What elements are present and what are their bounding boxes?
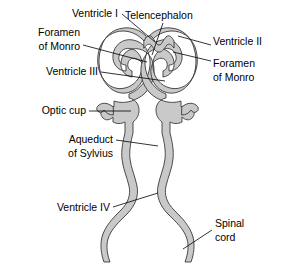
label-foramen-of-monro-right-line1: Foramen <box>213 57 255 69</box>
leader-lines <box>83 14 212 249</box>
leader-ventricle-2 <box>178 36 211 45</box>
label-ventricle-1: Ventricle I <box>72 7 118 19</box>
label-ventricle-2: Ventricle II <box>213 35 262 47</box>
ventricular-system-diagram: Ventricle I Telencephalon Foramen of Mon… <box>0 0 295 272</box>
label-aqueduct-of-sylvius-line2: of Sylvius <box>68 147 113 159</box>
label-foramen-of-monro-left-line1: Foramen <box>38 26 80 38</box>
label-telencephalon: Telencephalon <box>125 9 193 21</box>
label-optic-cup: Optic cup <box>42 104 87 116</box>
ventricle-wall-left <box>98 28 154 262</box>
label-ventricle-3: Ventricle III <box>46 65 98 77</box>
label-foramen-of-monro-right-line2: of Monro <box>213 71 255 83</box>
label-foramen-of-monro-left-line2: of Monro <box>39 40 81 52</box>
label-ventricle-4: Ventricle IV <box>57 201 110 213</box>
label-spinal-cord-line2: cord <box>215 231 236 243</box>
label-aqueduct-of-sylvius-line1: Aqueduct <box>69 133 113 145</box>
ventricle-walls <box>97 28 199 262</box>
label-spinal-cord-line1: Spinal <box>215 217 244 229</box>
